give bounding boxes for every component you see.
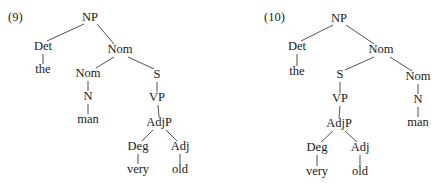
example-number-label: (9) — [8, 10, 23, 24]
terminal-node-man: man — [407, 115, 429, 129]
tree-branch-np-to-nom_top — [97, 24, 114, 44]
terminal-node-very: very — [306, 164, 329, 178]
terminal-node-the: the — [289, 64, 305, 78]
category-node-vp: VP — [332, 91, 348, 105]
tree-diagram-canvas: (9)NPDettheNomNomNmanSVPAdjPDegveryAdjol… — [0, 0, 439, 187]
tree-branch-nom_top-to-s — [128, 57, 154, 69]
category-node-n: N — [413, 92, 422, 106]
category-node-deg: Deg — [128, 139, 150, 153]
category-node-adj: Adj — [171, 139, 190, 153]
terminal-node-very: very — [127, 162, 150, 176]
terminal-node-old: old — [172, 162, 189, 176]
category-node-nom_top: Nom — [108, 42, 133, 56]
category-node-nom_right: Nom — [406, 69, 431, 83]
category-node-det: Det — [34, 39, 53, 53]
terminal-node-the: the — [35, 62, 51, 76]
terminal-node-old: old — [352, 164, 369, 178]
category-node-vp: VP — [149, 90, 165, 104]
tree-9: (9)NPDettheNomNomNmanSVPAdjPDegveryAdjol… — [8, 10, 189, 176]
terminal-node-man: man — [77, 112, 99, 126]
category-node-s: S — [337, 67, 344, 81]
category-node-np: NP — [82, 10, 98, 24]
category-node-det: Det — [288, 39, 307, 53]
category-node-adj: Adj — [351, 140, 370, 154]
tree-branch-np-to-det — [47, 24, 84, 41]
tree-10: (10)NPDettheNomSVPAdjPDegveryAdjoldNomNm… — [264, 10, 431, 178]
category-node-adjp: AdjP — [146, 115, 172, 129]
category-node-nom_low: Nom — [76, 66, 101, 80]
category-node-adjp: AdjP — [326, 116, 352, 130]
category-node-s: S — [154, 67, 161, 81]
example-number-label: (10) — [264, 10, 285, 24]
category-node-n: N — [83, 89, 92, 103]
syntax-tree-figure: (9)NPDettheNomNomNmanSVPAdjPDegveryAdjol… — [0, 0, 439, 187]
category-node-nom_top: Nom — [369, 42, 394, 56]
category-node-deg: Deg — [307, 140, 329, 154]
category-node-np: NP — [331, 11, 347, 25]
tree-branch-nom_top-to-s — [345, 57, 374, 70]
